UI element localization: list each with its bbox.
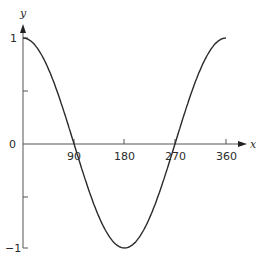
y-tick-label: 0 [9,138,16,151]
x-axis-label: x [250,138,257,151]
x-axis-arrow-icon [238,141,247,147]
y-tick-label: 1 [10,32,17,45]
y-axis-arrow-icon [20,24,26,33]
x-tick-label: 180 [114,150,135,163]
y-axis-label: y [19,7,27,20]
x-tick-label: 270 [165,150,186,163]
x-tick-label: 360 [216,150,237,163]
cosine-chart: y x 1 0 −1 90 180 270 360 [0,0,265,262]
y-tick-label: −1 [5,242,21,255]
